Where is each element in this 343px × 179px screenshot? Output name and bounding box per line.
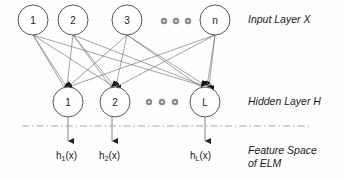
feature-space-label-line1: Feature Space — [248, 144, 317, 156]
edges-input-to-hidden — [33, 35, 215, 87]
elm-network-diagram: 1 2 3 n 1 2 L — [0, 0, 343, 179]
input-node-1-label: 1 — [30, 15, 36, 26]
hidden-layer-label: Hidden Layer H — [248, 95, 321, 108]
input-node-3-label: 3 — [124, 15, 130, 26]
feature-space-label-line2: of ELM — [248, 157, 281, 169]
hidden-layer-ellipsis-icon — [147, 100, 177, 104]
input-node-2[interactable]: 2 — [58, 5, 88, 35]
input-layer-label: Input Layer X — [248, 13, 310, 26]
output-hL-arg: (x) — [199, 150, 211, 161]
output-hL-label: hL(x) — [190, 150, 211, 162]
input-layer-ellipsis-icon — [162, 19, 190, 23]
hidden-node-L[interactable]: L — [190, 87, 220, 117]
output-drop-lines — [68, 117, 205, 141]
input-node-3[interactable]: 3 — [112, 5, 142, 35]
hidden-node-1[interactable]: 1 — [53, 87, 83, 117]
input-node-n-label: n — [212, 15, 218, 26]
feature-space-label: Feature Spaceof ELM — [248, 144, 317, 170]
output-h2-label: h2(x) — [99, 150, 120, 162]
input-node-2-label: 2 — [70, 15, 76, 26]
hidden-node-2-label: 2 — [112, 97, 118, 108]
hidden-node-1-label: 1 — [65, 97, 71, 108]
hidden-node-2[interactable]: 2 — [100, 87, 130, 117]
hidden-node-L-label: L — [202, 97, 208, 108]
input-node-n[interactable]: n — [200, 5, 230, 35]
output-h1-label: h1(x) — [56, 150, 77, 162]
input-node-1[interactable]: 1 — [18, 5, 48, 35]
output-h1-arg: (x) — [65, 150, 77, 161]
output-h2-arg: (x) — [108, 150, 120, 161]
